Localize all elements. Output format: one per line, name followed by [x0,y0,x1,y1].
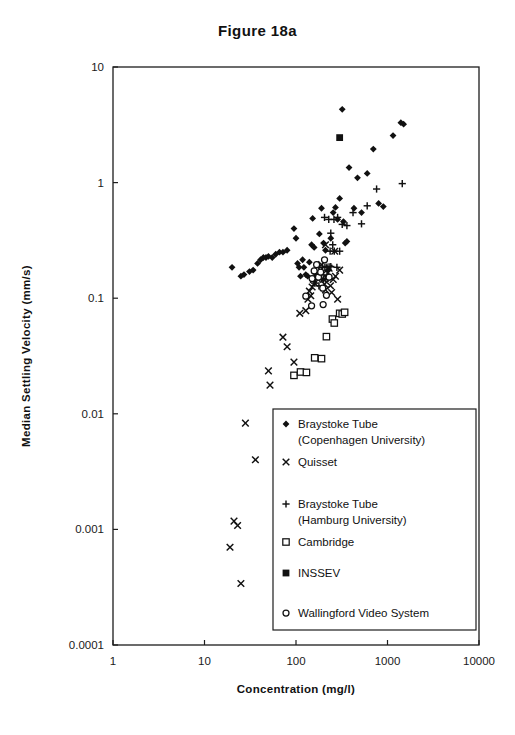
data-point-plus [327,230,334,237]
data-point-filled-diamond [318,205,325,212]
y-tick-label: 0.001 [75,523,104,535]
data-point-x [291,359,298,366]
series-group [291,309,348,378]
data-point-open-circle [318,269,324,275]
data-point-open-circle [303,293,309,299]
chart-legend: Braystoke Tube(Copenhagen University)Qui… [273,409,476,630]
data-point-x [280,334,287,341]
data-point-filled-diamond [346,164,353,171]
series-group [336,134,343,141]
data-point-open-circle [309,276,315,282]
data-point-x [334,296,341,303]
data-point-open-square [303,369,309,375]
data-point-filled-diamond [229,264,236,271]
legend-label-continued: (Hamburg University) [298,514,407,526]
data-point-plus [349,209,356,216]
data-point-filled-diamond [364,170,371,177]
scatter-plot: Braystoke Tube(Copenhagen University)Qui… [0,0,515,735]
y-tick-label: 10 [91,61,104,73]
data-point-open-circle [314,262,320,268]
legend-marker-open-circle [283,610,289,616]
data-point-open-circle [322,257,328,263]
data-point-filled-diamond [309,215,316,222]
data-point-filled-diamond [351,205,358,212]
legend-label: Braystoke Tube [298,418,378,430]
data-point-filled-diamond [293,235,300,242]
legend-label: Cambridge [298,536,354,548]
legend-label-continued: (Copenhagen University) [298,434,425,446]
x-axis-title: Concentration (mg/l) [237,683,355,695]
data-point-x [303,307,310,314]
data-point-filled-diamond [354,174,361,181]
legend-label: Wallingford Video System [298,607,429,619]
data-point-filled-diamond [339,106,346,113]
legend-label: INSSEV [298,567,341,579]
data-point-open-square [323,333,329,339]
data-point-open-square [311,355,317,361]
data-point-x [284,343,291,350]
data-point-plus [329,241,336,248]
legend-label: Braystoke Tube [298,498,378,510]
data-point-x [238,580,245,587]
data-point-x [252,457,259,464]
data-point-filled-diamond [336,195,343,202]
data-point-filled-square [336,134,343,141]
data-point-open-square [331,320,337,326]
data-point-x [327,283,334,290]
x-tick-label: 10000 [463,655,495,667]
data-point-filled-diamond [299,256,306,263]
series-group [311,180,406,289]
data-point-x [296,310,303,317]
data-point-plus [364,202,371,209]
data-point-open-square [318,355,324,361]
data-point-filled-diamond [316,230,323,237]
y-tick-label: 1 [98,177,104,189]
x-tick-label: 1 [110,655,116,667]
data-point-plus [399,180,406,187]
legend-marker-filled-square [283,570,290,577]
legend-label: Quisset [298,456,338,468]
series-group [229,106,407,280]
x-tick-label: 1000 [375,655,401,667]
x-tick-label: 100 [286,655,305,667]
data-point-x [242,420,249,427]
data-point-x [267,382,274,389]
data-point-plus [358,220,365,227]
data-point-filled-diamond [370,146,377,153]
y-tick-label: 0.1 [88,292,104,304]
data-point-x [332,273,339,280]
data-point-x [234,522,241,529]
data-point-filled-diamond [297,273,304,280]
data-point-open-circle [320,285,326,291]
data-point-plus [373,185,380,192]
y-tick-label: 0.0001 [69,639,104,651]
data-point-x [227,544,234,551]
data-point-filled-diamond [306,259,313,266]
data-point-filled-diamond [291,225,298,232]
legend-marker-open-square [283,539,289,545]
figure-container: Figure 18a Braystoke Tube(Copenhagen Uni… [0,0,515,735]
x-tick-label: 10 [198,655,211,667]
data-point-filled-diamond [358,209,365,216]
data-point-open-circle [320,302,326,308]
data-point-open-circle [326,274,332,280]
y-axis-title: Median Settling Velocity (mm/s) [20,265,32,447]
data-point-open-square [341,309,347,315]
y-tick-label: 0.01 [82,408,104,420]
data-point-open-square [291,372,297,378]
data-point-open-circle [309,303,315,309]
data-point-x [265,368,272,375]
data-point-filled-diamond [301,264,308,271]
data-point-open-circle [323,292,329,298]
data-point-open-circle [311,268,317,274]
data-point-filled-diamond [390,132,397,139]
